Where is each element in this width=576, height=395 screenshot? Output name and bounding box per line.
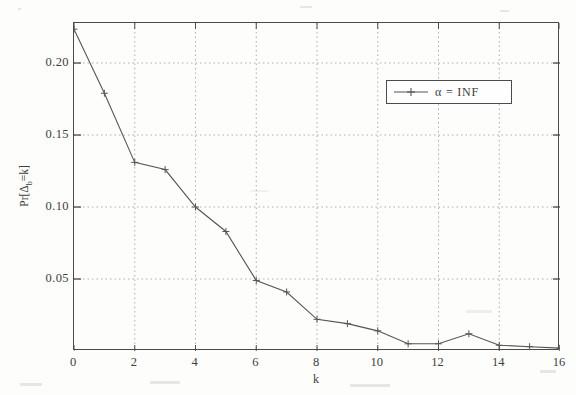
y-axis-tick-label: 0.05 — [46, 271, 69, 286]
data-point-marker — [344, 320, 351, 327]
data-point-marker — [465, 330, 472, 337]
x-axis-tick-label: 10 — [371, 355, 384, 370]
y-axis-tick-label: 0.15 — [46, 127, 69, 142]
plot-area — [73, 22, 559, 350]
x-axis-tick-label: 14 — [492, 355, 505, 370]
x-axis-tick-label: 8 — [313, 355, 319, 370]
x-axis-tick-label: 4 — [191, 355, 197, 370]
x-axis-title: k — [73, 372, 559, 387]
x-axis-tick-label: 16 — [553, 355, 566, 370]
scan-speckle — [500, 10, 509, 12]
legend-box: α = INF — [386, 80, 512, 104]
x-axis-tick-label: 12 — [431, 355, 444, 370]
x-axis-tick-label: 2 — [131, 355, 137, 370]
data-point-marker — [435, 340, 442, 347]
figure-canvas: 0.050.100.150.20 Pr[Δb=k] k α = INF 0246… — [0, 0, 576, 395]
y-axis-tick-label: 0.20 — [46, 55, 69, 70]
data-point-marker — [253, 277, 260, 284]
data-point-marker — [101, 90, 108, 97]
y-axis-tick-label: 0.10 — [46, 199, 69, 214]
data-line — [74, 29, 560, 348]
data-point-marker — [405, 340, 412, 347]
data-point-marker — [526, 343, 533, 350]
scan-speckle — [300, 6, 312, 8]
data-series-alpha-inf — [74, 23, 560, 351]
x-axis-tick-label: 0 — [70, 355, 76, 370]
y-axis-title: Pr[Δb=k] — [18, 165, 33, 207]
data-point-marker — [374, 327, 381, 334]
data-point-marker — [496, 342, 503, 349]
legend-label-alpha-inf: α = INF — [435, 85, 479, 100]
data-point-marker — [131, 159, 138, 166]
plus-marker-icon — [394, 86, 428, 98]
data-point-marker — [557, 345, 561, 351]
x-axis-tick-label: 6 — [252, 355, 258, 370]
y-axis-tick-labels: 0.050.100.150.20 — [0, 0, 69, 395]
